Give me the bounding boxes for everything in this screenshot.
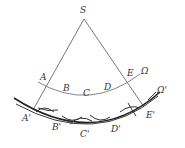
label-a: A — [39, 72, 47, 82]
label-s: S — [80, 5, 86, 15]
wavefront-diagram: S A B C D E Ω Ω' A' B' C' D' E' — [0, 0, 185, 148]
label-b: B — [62, 83, 70, 93]
label-b-prime: B' — [51, 122, 61, 132]
label-omega-prime: Ω' — [156, 85, 167, 95]
label-c: C — [83, 88, 90, 98]
ray-s-e-prime — [84, 19, 144, 107]
label-d: D — [103, 82, 111, 92]
label-a-prime: A' — [21, 113, 31, 123]
wavelet-arc-4 — [90, 115, 110, 120]
ray-s-a-prime — [33, 19, 84, 110]
label-d-prime: D' — [110, 124, 121, 134]
label-e: E — [126, 68, 134, 78]
label-e-prime: E' — [145, 110, 155, 120]
label-c-prime: C' — [80, 129, 89, 139]
label-omega: Ω — [140, 66, 149, 76]
